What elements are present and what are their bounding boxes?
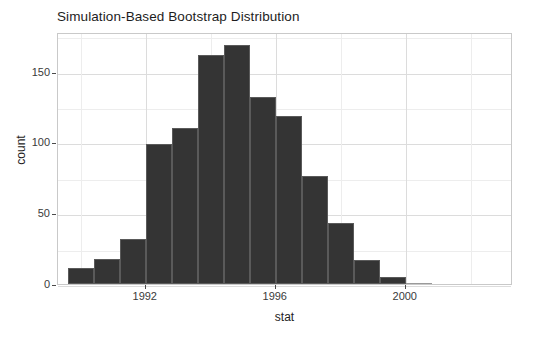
x-axis-tick-mark (145, 285, 146, 289)
histogram-bar (380, 277, 406, 284)
histogram-bar (354, 260, 380, 284)
histogram-bar (224, 45, 250, 284)
bootstrap-histogram-chart: Simulation-Based Bootstrap Distribution … (0, 0, 545, 345)
y-axis-tick-mark (52, 73, 56, 74)
y-axis-tick-label: 150 (32, 67, 50, 78)
histogram-bar (172, 128, 198, 284)
histogram-bar (120, 239, 146, 284)
x-axis-tick-label: 2000 (393, 291, 417, 302)
chart-title: Simulation-Based Bootstrap Distribution (57, 9, 300, 25)
y-axis-tick-label: 0 (44, 279, 50, 290)
x-axis-tick-label: 1996 (263, 291, 287, 302)
histogram-bar (406, 283, 432, 284)
x-axis-tick-mark (405, 285, 406, 289)
histogram-bar (276, 116, 302, 284)
histogram-bar (94, 259, 120, 284)
histogram-bar (198, 55, 224, 284)
y-axis-tick-mark (52, 285, 56, 286)
y-axis-title: count (14, 115, 28, 185)
y-axis-tick-mark (52, 143, 56, 144)
histogram-bar (250, 97, 276, 284)
x-axis-tick-area: 199219962000 (57, 285, 512, 309)
histogram-bar (328, 223, 354, 284)
x-axis-tick-label: 1992 (133, 291, 157, 302)
histogram-bars (58, 34, 511, 284)
y-axis-tick-label: 50 (38, 208, 50, 219)
x-axis-tick-mark (275, 285, 276, 289)
plot-panel (57, 33, 512, 285)
histogram-bar (68, 268, 94, 284)
y-axis-tick-label: 100 (32, 137, 50, 148)
histogram-bar (302, 176, 328, 284)
histogram-bar (146, 144, 172, 284)
y-axis-tick-mark (52, 214, 56, 215)
x-axis-title: stat (57, 310, 512, 324)
